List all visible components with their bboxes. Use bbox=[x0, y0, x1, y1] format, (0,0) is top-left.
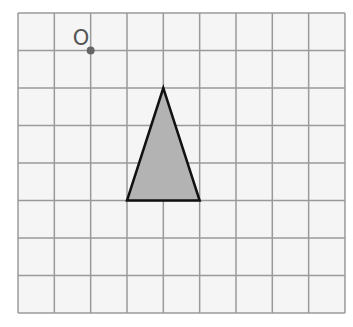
point-o-label: O bbox=[73, 26, 90, 50]
grid-diagram: O bbox=[0, 0, 353, 327]
